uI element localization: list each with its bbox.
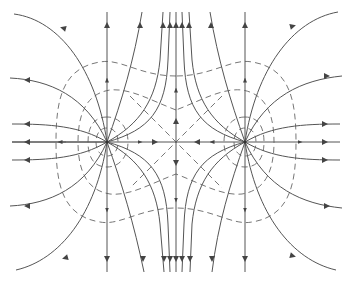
field-lines-canvas — [0, 0, 352, 284]
right-charge — [244, 141, 247, 144]
field-lines — [10, 12, 342, 272]
left-charge — [106, 141, 109, 144]
field-diagram: Electric field of two equal positive poi… — [0, 0, 352, 284]
